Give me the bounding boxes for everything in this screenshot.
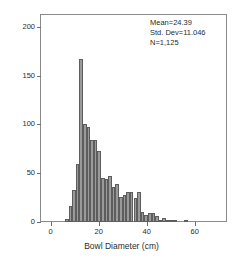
y-tick-mark: [37, 27, 41, 28]
x-tick-mark: [99, 222, 100, 226]
stat-mean: Mean=24.39: [150, 18, 206, 28]
y-tick-label: 0: [31, 218, 35, 226]
stat-std-dev: Std. Dev=11.046: [150, 28, 206, 38]
y-tick-label: 150: [22, 72, 35, 80]
x-tick-label: 40: [132, 228, 162, 236]
histogram-bar: [184, 220, 188, 222]
x-tick-mark: [51, 222, 52, 226]
x-axis-label: Bowl Diameter (cm): [0, 241, 243, 251]
x-tick-mark: [195, 222, 196, 226]
x-tick-label: 20: [84, 228, 114, 236]
y-tick-mark: [37, 124, 41, 125]
y-tick-mark: [37, 76, 41, 77]
y-tick-label: 50: [27, 169, 35, 177]
y-tick-mark: [37, 173, 41, 174]
stats-annotation: Mean=24.39 Std. Dev=11.046 N=1,125: [150, 18, 206, 48]
y-tick-mark: [37, 222, 41, 223]
stat-n: N=1,125: [150, 38, 206, 48]
x-tick-mark: [147, 222, 148, 226]
x-tick-label: 60: [180, 228, 210, 236]
y-tick-label: 100: [22, 120, 35, 128]
histogram-bar: [173, 220, 177, 222]
y-tick-label: 200: [22, 23, 35, 31]
x-tick-label: 0: [36, 228, 66, 236]
histogram-figure: 050100150200 0204060 Frequency Bowl Diam…: [0, 0, 243, 259]
